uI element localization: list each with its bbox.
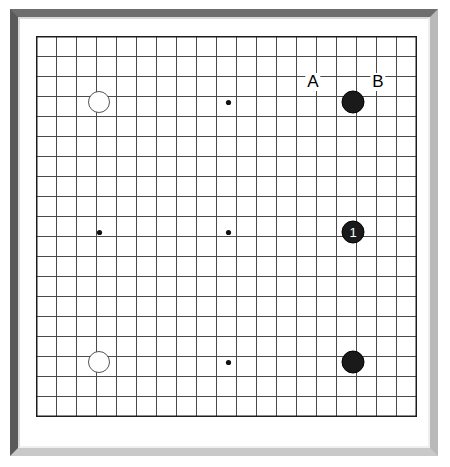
- white-stone[interactable]: [88, 91, 110, 113]
- star-point-center: [226, 230, 231, 235]
- stone-move-number: 1: [343, 222, 364, 243]
- star-point-left-center: [97, 230, 102, 235]
- black-stone[interactable]: [342, 351, 365, 374]
- star-point-top-center: [226, 100, 231, 105]
- white-stone[interactable]: [88, 351, 110, 373]
- point-label-b[interactable]: B: [370, 73, 385, 91]
- point-label-a[interactable]: A: [305, 73, 320, 91]
- black-stone[interactable]: 1: [342, 221, 365, 244]
- star-point-bottom-center: [226, 360, 231, 365]
- go-board-diagram: AB1: [0, 0, 450, 467]
- black-stone[interactable]: [342, 91, 365, 114]
